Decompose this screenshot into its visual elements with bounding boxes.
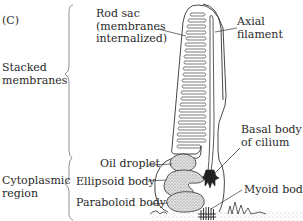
label-myoid-body: Myoid body — [244, 184, 303, 197]
stippled-ground — [150, 211, 303, 221]
leader-axial-filament — [215, 28, 237, 32]
label-basal-body: Basal body of cilium — [241, 124, 302, 149]
panel-label: (C) — [2, 15, 19, 28]
axial-filament-lines — [208, 15, 214, 172]
label-oil-droplet: Oil droplet — [100, 158, 160, 171]
label-axial-filament: Axial filament — [237, 16, 283, 41]
label-rod-sac: Rod sac (membranes internalized) — [96, 8, 167, 46]
paraboloid-body-shape — [167, 192, 205, 213]
label-cytoplasmic-region: Cytoplasmic region — [2, 175, 71, 200]
membrane-discs — [177, 13, 206, 148]
oil-droplet-shape — [170, 154, 196, 172]
leader-myoid-body — [211, 190, 242, 209]
label-paraboloid-body: Paraboloid body — [76, 197, 166, 210]
label-ellipsoid-body: Ellipsoid body — [76, 176, 155, 189]
label-stacked-membranes: Stacked membranes — [2, 62, 67, 87]
